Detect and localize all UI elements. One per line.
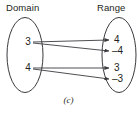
figure-caption: (c) [0, 95, 137, 105]
mapping-diagram-figure: Domain Range 3 4 4 –4 3 –3 (c) [0, 0, 137, 113]
domain-oval [7, 18, 43, 93]
range-element-4: 4 [114, 34, 120, 45]
domain-title: Domain [6, 2, 39, 13]
range-title: Range [97, 2, 126, 13]
arrow-3-to-neg4 [33, 43, 109, 51]
arrow-4-to-neg3 [33, 69, 109, 79]
domain-element-4: 4 [21, 62, 35, 73]
range-element-neg4: –4 [112, 45, 123, 56]
range-element-3: 3 [114, 62, 120, 73]
arrow-3-to-4 [33, 40, 109, 42]
domain-element-3: 3 [21, 36, 35, 47]
range-element-neg3: –3 [112, 73, 123, 84]
